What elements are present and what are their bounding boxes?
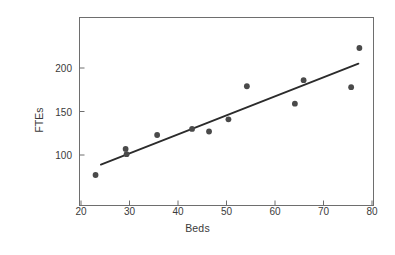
y-tick-label: 200 (44, 63, 72, 74)
x-tick-label: 80 (366, 206, 377, 217)
y-tick-label: 100 (44, 150, 72, 161)
data-point (123, 146, 129, 152)
data-point (301, 77, 307, 83)
x-tick-label: 40 (172, 206, 183, 217)
plot-frame (80, 18, 374, 206)
data-point (154, 132, 160, 138)
data-point (189, 126, 195, 132)
data-point (93, 172, 99, 178)
data-point (206, 129, 212, 135)
data-point (244, 83, 250, 89)
data-point (348, 84, 354, 90)
x-tick-label: 50 (221, 206, 232, 217)
regression-line (101, 64, 359, 165)
y-tick-label: 150 (44, 106, 72, 117)
scatter-plot-figure: Beds FTEs 20304050607080 100150200 (0, 0, 395, 255)
data-point (226, 116, 232, 122)
data-point (292, 101, 298, 107)
y-axis-label-wrap: FTEs (32, 95, 46, 145)
x-axis-label: Beds (0, 222, 395, 234)
plot-canvas (0, 0, 395, 255)
x-tick-label: 30 (124, 206, 135, 217)
data-point (356, 45, 362, 51)
data-points (93, 45, 363, 178)
x-tick-label: 60 (269, 206, 280, 217)
x-tick-label: 20 (75, 206, 86, 217)
data-point (124, 151, 130, 157)
x-tick-label: 70 (318, 206, 329, 217)
tick-marks (80, 68, 373, 206)
